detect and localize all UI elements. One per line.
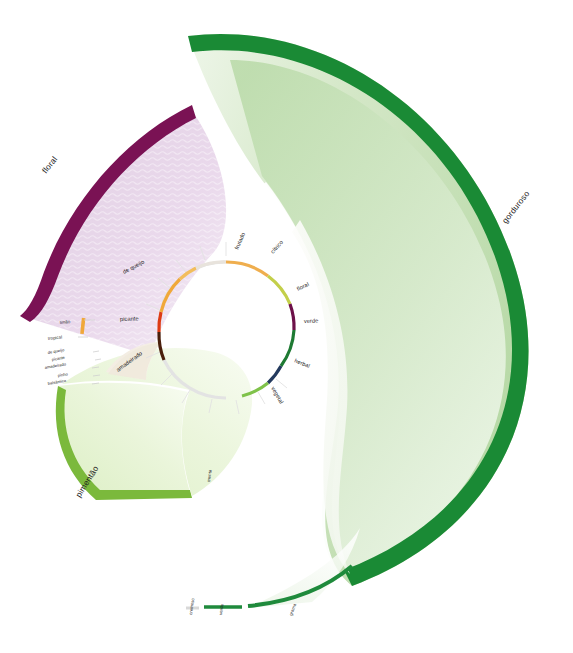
- ribbon-gorduroso: [188, 34, 529, 586]
- label-cremoso: cremoso: [188, 597, 195, 615]
- label-vegetal: vegetal: [270, 386, 285, 405]
- label-leaf-amadeirado: amadeirado: [44, 361, 67, 370]
- label-tropical: tropical: [48, 335, 63, 341]
- label-verde-inner: verde: [304, 317, 319, 324]
- arc-herbal: [268, 366, 281, 383]
- chord-diagram-svg: gorduroso floral pimentão cremoso verde …: [0, 0, 573, 653]
- arc-frutado: [226, 262, 268, 276]
- chord-diagram-canvas: gorduroso floral pimentão cremoso verde …: [0, 0, 573, 653]
- label-leaf-pinho: pinho: [57, 371, 68, 378]
- label-leaf-de-queijo: de queijo: [47, 347, 65, 355]
- label-verde-bottom: verde: [218, 603, 225, 615]
- label-picante-inner: picante: [120, 315, 139, 322]
- ribbon-pimentao: [56, 383, 192, 500]
- label-frutado: frutado: [233, 231, 246, 250]
- label-gorduroso: gorduroso: [500, 189, 531, 225]
- label-leaf-balsamico: balsâmico: [47, 378, 67, 386]
- label-floral-outer: floral: [40, 155, 59, 175]
- label-grama: grama: [288, 602, 297, 616]
